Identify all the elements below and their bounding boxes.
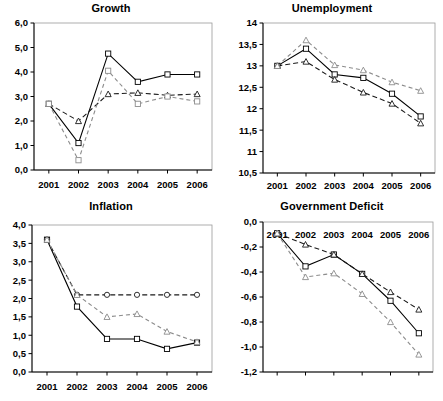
chart-panel-unemployment: Unemployment 10,51111,51212,51313,514200… xyxy=(221,2,443,200)
plot-area-unemployment: 10,51111,51212,51313,5142001200220032004… xyxy=(221,2,443,200)
series-line-series-2 xyxy=(47,240,197,295)
y-tick-label: 3,0 xyxy=(15,91,28,102)
x-tick-label: 2006 xyxy=(408,229,429,240)
data-point-series-1 xyxy=(104,336,109,341)
x-tick-label: 2004 xyxy=(127,179,149,190)
y-tick-label: 11 xyxy=(247,146,258,157)
y-tick-label: -0,6 xyxy=(241,291,257,302)
four-panel-chart-figure: Growth 0,01,02,03,04,05,06,0200120022003… xyxy=(0,0,443,401)
y-tick-label: -1,0 xyxy=(241,341,257,352)
data-point-series-3 xyxy=(164,329,170,335)
x-tick-label: 2005 xyxy=(157,179,179,190)
plot-frame xyxy=(32,225,212,372)
y-tick-label: 3,0 xyxy=(13,256,26,267)
data-point-series-1 xyxy=(135,79,140,84)
data-point-series-1 xyxy=(165,72,170,77)
data-point-series-2 xyxy=(418,120,424,126)
x-tick-label: 2006 xyxy=(410,180,431,191)
x-tick-label: 2003 xyxy=(324,180,345,191)
x-tick-label: 2005 xyxy=(156,381,178,392)
x-tick-label: 2005 xyxy=(381,180,403,191)
x-tick-label: 2002 xyxy=(68,179,89,190)
series-line-series-1 xyxy=(49,54,197,143)
series-line-series-2 xyxy=(277,233,419,309)
y-tick-label: 6,0 xyxy=(15,17,28,28)
data-point-series-3 xyxy=(360,67,366,73)
y-tick-label: 11,5 xyxy=(239,125,258,136)
y-tick-label: 5,0 xyxy=(15,42,28,53)
plot-frame xyxy=(34,23,212,170)
data-point-series-2 xyxy=(164,292,169,297)
series-line-series-1 xyxy=(47,240,197,349)
chart-panel-growth: Growth 0,01,02,03,04,05,06,0200120022003… xyxy=(0,2,222,200)
plot-area-government-deficit: -1,2-1,0-0,8-0,6-0,4-0,20,02001200220032… xyxy=(221,200,443,400)
data-point-series-3 xyxy=(106,68,111,73)
x-tick-label: 2001 xyxy=(36,381,58,392)
series-line-series-1 xyxy=(277,49,420,117)
y-tick-label: -0,4 xyxy=(241,266,258,277)
data-point-series-3 xyxy=(389,79,395,85)
data-point-series-2 xyxy=(388,289,394,295)
y-tick-label: 10,5 xyxy=(239,167,258,178)
series-line-series-3 xyxy=(277,233,419,354)
y-tick-label: 0,0 xyxy=(15,164,28,175)
y-tick-label: 4,0 xyxy=(15,66,28,77)
x-tick-label: 2004 xyxy=(353,180,375,191)
data-point-series-3 xyxy=(303,37,309,43)
y-tick-label: 4,0 xyxy=(13,219,26,230)
data-point-series-3 xyxy=(195,99,200,104)
plot-frame xyxy=(263,222,433,372)
y-tick-label: 14 xyxy=(246,17,257,28)
chart-panel-inflation: Inflation 0,00,51,01,52,02,53,03,54,0200… xyxy=(0,200,222,400)
data-point-series-1 xyxy=(361,75,366,80)
plot-area-inflation: 0,00,51,01,52,02,53,03,54,02001200220032… xyxy=(0,200,222,400)
data-point-series-3 xyxy=(388,319,394,325)
x-tick-label: 2003 xyxy=(98,179,119,190)
data-point-series-3 xyxy=(165,94,170,99)
data-point-series-2 xyxy=(194,292,199,297)
chart-panel-government-deficit: Government Deficit -1,2-1,0-0,8-0,6-0,4-… xyxy=(221,200,443,400)
data-point-series-3 xyxy=(46,101,51,106)
x-tick-label: 2001 xyxy=(267,180,289,191)
plot-frame xyxy=(263,23,435,173)
data-point-series-2 xyxy=(104,292,109,297)
y-tick-label: 1,5 xyxy=(13,311,27,322)
data-point-series-1 xyxy=(195,72,200,77)
series-line-series-3 xyxy=(277,40,420,91)
data-point-series-1 xyxy=(74,304,79,309)
x-tick-label: 2002 xyxy=(295,180,316,191)
data-point-series-1 xyxy=(389,91,394,96)
data-point-series-2 xyxy=(360,89,366,95)
x-tick-label: 2006 xyxy=(186,381,207,392)
series-line-series-2 xyxy=(49,93,197,121)
y-tick-label: 0,0 xyxy=(13,366,26,377)
data-point-series-2 xyxy=(389,101,395,107)
y-tick-label: -0,8 xyxy=(241,316,257,327)
x-tick-label: 2003 xyxy=(96,381,117,392)
x-tick-label: 2004 xyxy=(126,381,148,392)
x-tick-label: 2001 xyxy=(38,179,60,190)
y-tick-label: 1,0 xyxy=(13,330,26,341)
data-point-series-3 xyxy=(135,101,140,106)
y-tick-label: -1,2 xyxy=(241,366,257,377)
x-tick-label: 2002 xyxy=(66,381,87,392)
data-point-series-1 xyxy=(388,298,393,303)
data-point-series-1 xyxy=(76,140,81,145)
data-point-series-2 xyxy=(134,292,139,297)
data-point-series-3 xyxy=(76,158,81,163)
plot-area-growth: 0,01,02,03,04,05,06,02001200220032004200… xyxy=(0,2,222,200)
series-line-series-2 xyxy=(277,62,420,124)
y-tick-label: 2,5 xyxy=(13,275,27,286)
data-point-series-1 xyxy=(418,114,423,119)
series-line-series-3 xyxy=(49,71,197,160)
x-tick-label: 2004 xyxy=(352,229,374,240)
y-tick-label: 12 xyxy=(246,103,257,114)
data-point-series-1 xyxy=(303,264,308,269)
y-tick-label: 13,5 xyxy=(239,39,258,50)
data-point-series-2 xyxy=(303,242,309,248)
y-tick-label: 0,0 xyxy=(244,216,257,227)
data-point-series-3 xyxy=(303,274,309,280)
y-tick-label: 0,5 xyxy=(13,348,27,359)
y-tick-label: -0,2 xyxy=(241,241,257,252)
data-point-series-2 xyxy=(416,307,422,313)
